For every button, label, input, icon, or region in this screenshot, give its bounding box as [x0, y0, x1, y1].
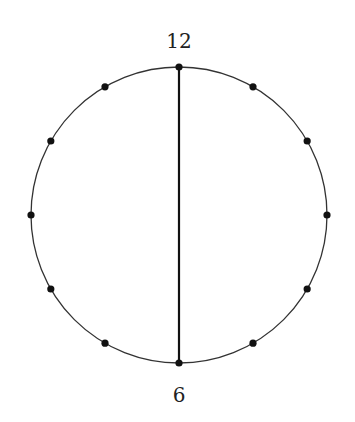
hour-point: [101, 340, 108, 347]
hour-point: [175, 359, 182, 366]
hour-point: [249, 340, 256, 347]
hour-point: [249, 83, 256, 90]
hour-point: [27, 211, 34, 218]
hour-point: [175, 63, 182, 70]
label-6: 6: [173, 383, 186, 407]
hour-point: [304, 285, 311, 292]
label-12: 12: [166, 29, 191, 53]
clock-diagram: 12 6: [0, 0, 355, 422]
hour-point: [323, 211, 330, 218]
hour-point: [47, 285, 54, 292]
hour-point: [304, 137, 311, 144]
hour-point: [47, 137, 54, 144]
hour-point: [101, 83, 108, 90]
